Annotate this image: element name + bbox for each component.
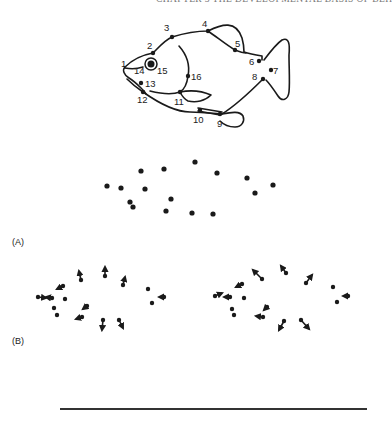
section-rule bbox=[60, 408, 367, 410]
landmark-point bbox=[161, 166, 166, 171]
displacement-arrow bbox=[38, 297, 46, 298]
displacement-arrow bbox=[256, 316, 263, 317]
landmark-label: 15 bbox=[157, 65, 168, 76]
fish-operculum bbox=[150, 46, 189, 94]
landmark-dot bbox=[218, 112, 222, 116]
displacement-arrow bbox=[46, 297, 52, 298]
landmark-point bbox=[138, 168, 143, 173]
landmark-point bbox=[150, 301, 154, 305]
landmark-point bbox=[210, 211, 215, 216]
landmark-point bbox=[52, 306, 56, 310]
landmark-point bbox=[130, 204, 135, 209]
landmark-dot bbox=[257, 59, 261, 63]
displacement-arrow bbox=[264, 307, 267, 310]
landmark-label: 14 bbox=[134, 65, 145, 76]
landmark-point bbox=[146, 287, 150, 291]
panel-a-points bbox=[104, 159, 275, 216]
fish-pectoral-fin bbox=[180, 91, 211, 102]
landmark-label: 16 bbox=[191, 71, 202, 82]
landmark-label: 11 bbox=[174, 96, 184, 107]
landmark-point bbox=[55, 313, 59, 317]
landmark-label: 3 bbox=[164, 22, 169, 33]
landmark-label: 5 bbox=[235, 38, 240, 49]
landmark-point bbox=[192, 159, 197, 164]
landmark-dot bbox=[186, 74, 190, 78]
landmark-point bbox=[63, 297, 67, 301]
fish-eye bbox=[145, 58, 157, 70]
landmark-point bbox=[127, 199, 132, 204]
landmark-point bbox=[252, 190, 257, 195]
landmark-label: 12 bbox=[137, 94, 148, 105]
displacement-arrow bbox=[279, 321, 284, 330]
landmark-dot bbox=[151, 51, 155, 55]
displacement-arrow bbox=[306, 275, 312, 283]
landmark-label: 1 bbox=[121, 58, 126, 69]
landmark-point bbox=[104, 183, 109, 188]
landmark-point bbox=[118, 185, 123, 190]
fish-anal-fin bbox=[220, 112, 244, 127]
landmark-point bbox=[331, 285, 335, 289]
panel-b-left-vectors bbox=[36, 267, 166, 330]
landmark-label: 4 bbox=[202, 18, 207, 29]
landmark-point bbox=[168, 196, 173, 201]
landmark-label: 8 bbox=[252, 71, 257, 82]
landmark-dot bbox=[198, 108, 202, 112]
displacement-arrow bbox=[102, 320, 103, 330]
landmark-dot bbox=[206, 29, 210, 33]
landmark-point bbox=[189, 210, 194, 215]
landmark-point bbox=[244, 175, 249, 180]
landmark-label: 10 bbox=[193, 114, 204, 125]
landmark-point bbox=[142, 186, 147, 191]
displacement-arrow bbox=[253, 270, 262, 279]
landmark-point bbox=[335, 300, 339, 304]
landmark-label: 7 bbox=[273, 65, 278, 76]
landmark-point bbox=[270, 182, 275, 187]
landmark-label: 2 bbox=[147, 40, 152, 51]
landmark-dot bbox=[139, 81, 143, 85]
landmark-label: 6 bbox=[249, 56, 254, 67]
landmark-label: 9 bbox=[217, 118, 222, 129]
panel-label-b: (B) bbox=[12, 336, 24, 346]
landmark-dot bbox=[178, 90, 182, 94]
panel-b-right-vectors bbox=[213, 266, 350, 330]
displacement-arrow bbox=[119, 320, 123, 328]
landmark-dot bbox=[170, 35, 174, 39]
landmark-point bbox=[230, 307, 234, 311]
landmark-dot bbox=[261, 77, 265, 81]
landmark-point bbox=[163, 208, 168, 213]
landmark-point bbox=[214, 170, 219, 175]
panel-label-a: (A) bbox=[12, 237, 24, 247]
landmark-point bbox=[242, 296, 246, 300]
landmark-point bbox=[232, 313, 236, 317]
displacement-arrow bbox=[301, 320, 309, 329]
displacement-arrow bbox=[281, 266, 286, 273]
landmark-label: 13 bbox=[145, 78, 156, 89]
